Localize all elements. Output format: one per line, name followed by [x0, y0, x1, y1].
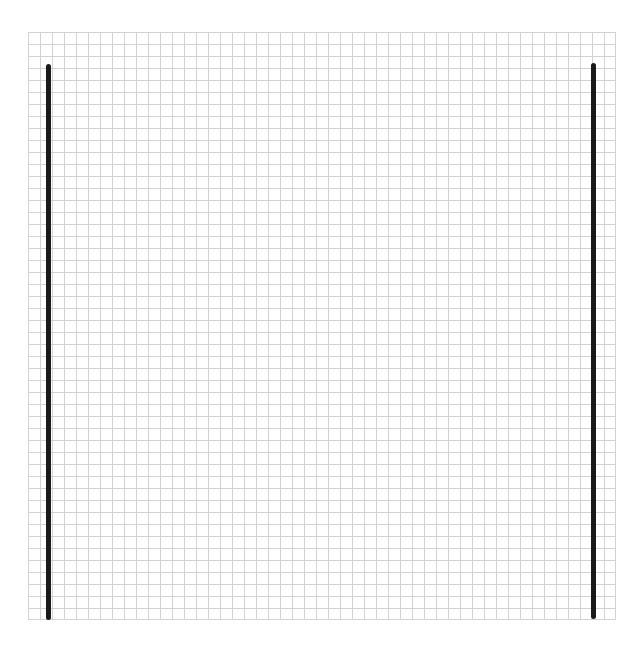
graph-paper-grid: [28, 32, 616, 620]
left-vertical-line: [46, 64, 51, 620]
right-vertical-line: [591, 63, 596, 619]
